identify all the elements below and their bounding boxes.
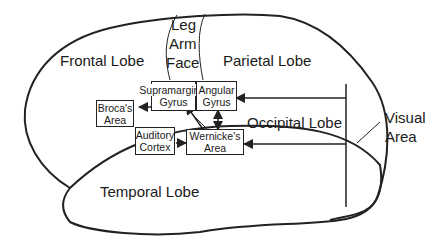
parietal-lobe-label: Parietal Lobe <box>223 52 311 69</box>
visual-area-line1: Visual <box>385 108 426 127</box>
occipital-lobe-label: Occipital Lobe <box>247 114 342 131</box>
angular-gyrus-box: Angular Gyrus <box>196 81 237 111</box>
wernicke-line2: Area <box>204 142 226 154</box>
visual-area-label: Visual Area <box>385 108 426 146</box>
supramarginal-gyrus-box: Supramarginal Gyrus <box>151 81 196 111</box>
auditory-line1: Auditory <box>136 129 175 141</box>
wernickes-area-box: Wernicke's Area <box>186 129 244 155</box>
motor-strip-face-label: Face <box>166 53 199 72</box>
frontal-lobe-label: Frontal Lobe <box>60 52 144 69</box>
broca-line1: Broca's <box>98 102 133 114</box>
auditory-line2: Cortex <box>140 141 171 153</box>
broca-line2: Area <box>104 114 126 126</box>
motor-strip-right <box>199 14 205 80</box>
visual-area-pointer <box>357 122 380 143</box>
motor-strip-leg-label: Leg <box>171 15 196 34</box>
visual-area-line2: Area <box>385 127 426 146</box>
wernicke-line1: Wernicke's <box>190 130 241 142</box>
motor-strip-arm-label: Arm <box>169 34 197 53</box>
angular-line2: Gyrus <box>202 96 230 108</box>
angular-line1: Angular <box>198 84 234 96</box>
supramarginal-line2: Gyrus <box>159 96 187 108</box>
brocas-area-box: Broca's Area <box>96 100 134 127</box>
temporal-lobe-label: Temporal Lobe <box>100 183 199 200</box>
auditory-cortex-box: Auditory Cortex <box>135 127 175 155</box>
brain-outline-diagram <box>0 0 447 246</box>
